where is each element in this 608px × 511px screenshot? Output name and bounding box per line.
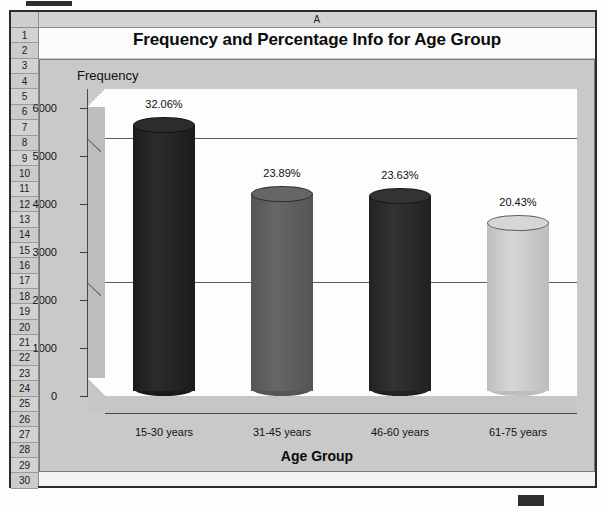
row-header-cell[interactable]: 30 [11, 473, 38, 488]
bar-cylinder-top-ellipse [133, 117, 194, 133]
scan-artifact-top [26, 1, 72, 6]
x-axis-category-labels: 15-30 years31-45 years46-60 years61-75 y… [61, 426, 577, 442]
y-axis-tick-group: 4000 [61, 204, 88, 205]
y-axis-tick-label: 0 [51, 390, 57, 402]
row-header-cell[interactable]: 11 [11, 182, 38, 197]
embedded-chart-object[interactable]: Frequency 0100020003000400050006000 32.0… [39, 59, 595, 472]
row-header-cell[interactable]: 26 [11, 412, 38, 427]
row-header-cell[interactable]: 7 [11, 120, 38, 135]
page-title: Frequency and Percentage Info for Age Gr… [39, 30, 595, 50]
bar-cylinder-top-ellipse [251, 186, 312, 202]
scan-artifact-bottom [518, 495, 544, 506]
bar-cylinder[interactable]: 32.06% [133, 117, 194, 396]
row-header-cell[interactable]: 4 [11, 74, 38, 89]
row-header-cell[interactable]: 3 [11, 59, 38, 74]
column-header-a[interactable]: A [39, 12, 595, 27]
y-axis-tick [80, 300, 88, 301]
y-axis-tick-label: 3000 [33, 246, 57, 258]
bar-cylinder[interactable]: 20.43% [487, 215, 548, 396]
chart-corner-wedge-bottom [87, 378, 105, 396]
spreadsheet-grid: A 12345678910111213141516171819202122232… [9, 10, 597, 488]
row-header-cell[interactable]: 29 [11, 458, 38, 473]
title-cell-band[interactable]: Frequency and Percentage Info for Age Gr… [39, 28, 595, 59]
bar-data-label: 23.63% [381, 169, 418, 181]
y-axis-line [87, 89, 88, 396]
y-axis-tick-group: 5000 [61, 156, 88, 157]
row-header-cell[interactable]: 1 [11, 28, 38, 43]
y-axis-tick [80, 204, 88, 205]
y-axis-tick [80, 396, 88, 397]
y-axis-tick [80, 156, 88, 157]
bar-cylinder[interactable]: 23.63% [369, 188, 430, 396]
bar-data-label: 23.89% [263, 167, 300, 179]
sheet-body: Frequency and Percentage Info for Age Gr… [39, 28, 595, 486]
chart-side-wall [87, 89, 105, 396]
y-axis-tick-group: 3000 [61, 252, 88, 253]
bar-cylinder-body [369, 196, 430, 391]
bar-cylinder-body [487, 223, 548, 391]
x-axis-title: Age Group [39, 448, 595, 464]
y-axis-tick [80, 252, 88, 253]
row-header-cell[interactable]: 10 [11, 166, 38, 181]
chart-floor [87, 396, 577, 414]
bar-cylinder-body [133, 125, 194, 391]
screenshot-root: A 12345678910111213141516171819202122232… [0, 0, 608, 511]
row-header-cell[interactable]: 23 [11, 366, 38, 381]
y-axis-tick-label: 2000 [33, 294, 57, 306]
row-header-cell[interactable]: 2 [11, 43, 38, 58]
y-axis-tick-group: 6000 [61, 108, 88, 109]
plot-area: 0100020003000400050006000 32.06%23.89%23… [61, 89, 577, 414]
y-axis-tick-label: 4000 [33, 198, 57, 210]
x-axis-category-label: 61-75 years [489, 426, 547, 438]
row-header-cell[interactable]: 17 [11, 274, 38, 289]
x-axis-category-label: 46-60 years [371, 426, 429, 438]
y-axis-tick-group: 1000 [61, 348, 88, 349]
x-axis-line [105, 413, 577, 414]
column-header-row: A [11, 12, 595, 28]
y-axis-tick [80, 108, 88, 109]
row-header-cell[interactable]: 19 [11, 304, 38, 319]
row-header-cell[interactable]: 28 [11, 443, 38, 458]
bar-cylinder[interactable]: 23.89% [251, 186, 312, 396]
row-header-cell[interactable]: 14 [11, 228, 38, 243]
y-axis-tick-label: 6000 [33, 102, 57, 114]
row-header-cell[interactable]: 20 [11, 320, 38, 335]
chart-corner-wedge-top [87, 89, 105, 107]
x-axis-category-label: 15-30 years [135, 426, 193, 438]
y-axis-tick-group: 2000 [61, 300, 88, 301]
y-axis-tick-label: 1000 [33, 342, 57, 354]
row-header-cell[interactable]: 13 [11, 212, 38, 227]
select-all-corner-cell[interactable] [11, 12, 39, 27]
bar-data-label: 20.43% [499, 196, 536, 208]
row-header-cell[interactable]: 8 [11, 136, 38, 151]
y-axis-tick [80, 348, 88, 349]
y-axis-tick-group: 0 [61, 396, 88, 397]
row-header-cell[interactable]: 27 [11, 427, 38, 442]
row-header-cell[interactable]: 16 [11, 258, 38, 273]
bar-cylinder-body [251, 194, 312, 391]
row-header-cell[interactable]: 25 [11, 397, 38, 412]
row-header-cell[interactable]: 24 [11, 381, 38, 396]
bar-data-label: 32.06% [145, 98, 182, 110]
y-axis-tick-label: 5000 [33, 150, 57, 162]
y-axis-title: Frequency [77, 68, 138, 83]
x-axis-category-label: 31-45 years [253, 426, 311, 438]
